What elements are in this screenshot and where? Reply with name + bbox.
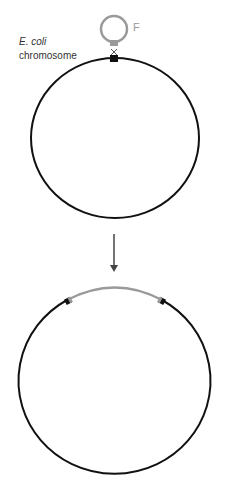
f-plasmid <box>101 16 127 46</box>
chromosome-site-marker <box>110 55 118 62</box>
integrated-f-segment <box>67 288 162 301</box>
crossover-x <box>111 49 117 55</box>
chromosome-circle <box>31 58 199 218</box>
integrated-chromosome <box>18 300 210 474</box>
integration-diagram <box>0 0 226 491</box>
down-arrow-icon <box>110 234 118 272</box>
plasmid-site-marker <box>110 40 118 46</box>
